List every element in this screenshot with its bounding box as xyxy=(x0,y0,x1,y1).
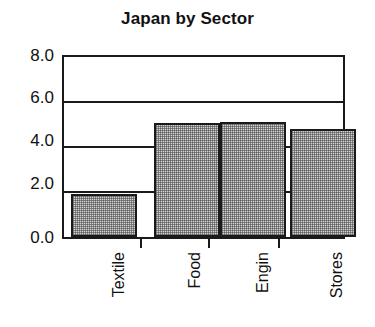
bar-engin[interactable] xyxy=(220,122,286,237)
y-axis-tick-label-8: 8.0 xyxy=(0,47,54,64)
bar-food[interactable] xyxy=(154,123,220,237)
x-axis-label-stores: Stores xyxy=(328,252,346,298)
x-axis-tick-2 xyxy=(208,239,210,248)
bar-chart-figure: Japan by Sector 8.0 6.0 4.0 2.0 0.0 Text… xyxy=(0,0,375,327)
x-axis-tick-3 xyxy=(278,239,280,248)
x-axis-label-food: Food xyxy=(186,252,204,288)
y-axis-tick-label-0: 0.0 xyxy=(0,229,54,246)
x-axis-tick-1 xyxy=(140,239,142,248)
chart-title: Japan by Sector xyxy=(0,9,375,29)
gridline-6 xyxy=(64,101,343,103)
bar-stores[interactable] xyxy=(290,129,356,237)
y-axis-tick-label-2: 2.0 xyxy=(0,175,54,192)
bar-textile[interactable] xyxy=(71,194,137,237)
y-axis-tick-label-4: 4.0 xyxy=(0,132,54,149)
plot-area xyxy=(62,55,345,239)
y-axis-tick-label-6: 6.0 xyxy=(0,89,54,106)
x-axis-label-textile: Textile xyxy=(110,252,128,297)
x-axis-label-engin: Engin xyxy=(254,252,272,293)
